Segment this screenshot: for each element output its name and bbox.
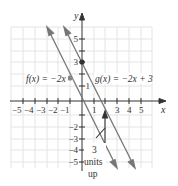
svg-text:−4: −4 <box>68 145 78 155</box>
annotation-3: 3 <box>92 145 97 155</box>
svg-text:5: 5 <box>74 34 79 44</box>
svg-text:−3: −3 <box>36 105 46 115</box>
f-label: f(x) = −2x <box>26 74 67 85</box>
annotation-up: up <box>88 169 98 179</box>
point-g <box>79 59 84 64</box>
g-label: g(x) = −2x + 3 <box>95 74 153 85</box>
x-axis-label: x <box>160 104 166 115</box>
svg-text:−5: −5 <box>68 157 78 167</box>
arrowhead-icon <box>47 27 54 36</box>
svg-text:1: 1 <box>92 105 97 115</box>
x-tick-labels: −5 −4 −3 −2 −1 1 3 4 5 <box>12 105 144 115</box>
svg-text:−5: −5 <box>12 105 22 115</box>
svg-text:−3: −3 <box>68 134 78 144</box>
point-f <box>67 75 72 80</box>
svg-text:−2: −2 <box>48 105 58 115</box>
svg-text:3: 3 <box>74 57 79 67</box>
svg-text:1: 1 <box>86 81 91 91</box>
annotation-units: units <box>84 157 103 167</box>
svg-text:4: 4 <box>127 105 132 115</box>
svg-text:−1: −1 <box>60 105 70 115</box>
svg-text:−4: −4 <box>24 105 34 115</box>
arrowhead-icon <box>111 160 118 168</box>
graph-canvas: y x −5 −4 −3 −2 −1 1 3 4 5 5 3 1 −2 −3 −… <box>0 0 178 186</box>
y-axis-label: y <box>73 10 79 21</box>
svg-text:−2: −2 <box>68 122 78 132</box>
svg-text:3: 3 <box>115 105 120 115</box>
svg-text:5: 5 <box>139 105 144 115</box>
